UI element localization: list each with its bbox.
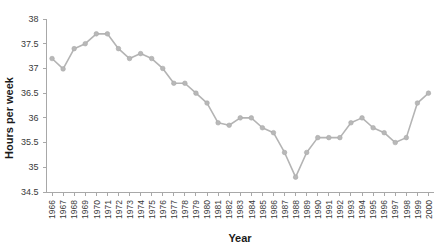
data-point-marker — [116, 46, 121, 51]
x-tick-label: 1992 — [335, 200, 345, 219]
x-tick-label: 1987 — [280, 200, 290, 219]
data-point-marker — [127, 56, 132, 61]
data-point-marker — [349, 121, 354, 126]
data-point-marker — [205, 101, 210, 106]
x-tick-label: 1976 — [158, 200, 168, 219]
data-point-marker — [271, 130, 276, 135]
data-point-marker — [293, 175, 298, 180]
x-tick-label: 1984 — [247, 200, 257, 219]
data-point-marker — [249, 116, 254, 121]
data-point-marker — [304, 150, 309, 155]
data-point-marker — [160, 66, 165, 71]
x-tick-label: 1972 — [114, 200, 124, 219]
x-tick-label: 1971 — [103, 200, 113, 219]
x-tick-label: 1982 — [224, 200, 234, 219]
x-tick-label: 1993 — [346, 200, 356, 219]
x-tick-label: 1986 — [269, 200, 279, 219]
y-tick-label: 35 — [28, 162, 38, 172]
line-chart-plot: 34.53535.53636.53737.538 196619671968196… — [0, 0, 439, 250]
data-point-marker — [172, 81, 177, 86]
y-tick-label: 35.5 — [21, 137, 39, 147]
data-point-marker — [404, 135, 409, 140]
x-tick-label: 1994 — [357, 200, 367, 219]
x-tick-label: 1991 — [324, 200, 334, 219]
x-tick-label: 1990 — [313, 200, 323, 219]
x-tick-label: 1974 — [136, 200, 146, 219]
x-tick-label: 1988 — [291, 200, 301, 219]
series-markers-group — [50, 32, 431, 180]
x-tick-label: 1981 — [213, 200, 223, 219]
x-tick-label: 1967 — [58, 200, 68, 219]
x-tick-label: 1979 — [191, 200, 201, 219]
data-point-marker — [149, 56, 154, 61]
y-tick-label: 37 — [28, 63, 38, 73]
data-point-marker — [338, 135, 343, 140]
data-point-marker — [415, 101, 420, 106]
data-point-marker — [360, 116, 365, 121]
y-tick-label: 36 — [28, 113, 38, 123]
data-point-marker — [327, 135, 332, 140]
y-tick-label: 37.5 — [21, 39, 39, 49]
x-tick-label: 1999 — [413, 200, 423, 219]
data-point-marker — [238, 116, 243, 121]
y-tick-label: 38 — [28, 14, 38, 24]
x-tick-label: 1989 — [302, 200, 312, 219]
x-tick-label: 1966 — [47, 200, 57, 219]
data-point-marker — [426, 91, 431, 96]
data-point-marker — [194, 91, 199, 96]
chart-container: 34.53535.53636.53737.538 196619671968196… — [0, 0, 439, 250]
x-tick-label: 1995 — [368, 200, 378, 219]
x-tick-label: 1970 — [92, 200, 102, 219]
x-tick-label: 1975 — [147, 200, 157, 219]
x-tick-label: 1968 — [69, 200, 79, 219]
data-point-marker — [72, 46, 77, 51]
data-point-marker — [393, 140, 398, 145]
x-tick-label: 1969 — [80, 200, 90, 219]
data-point-marker — [315, 135, 320, 140]
y-axis-title: Hours per week — [3, 76, 15, 159]
x-tick-label: 2000 — [424, 200, 434, 219]
y-tick-label: 36.5 — [21, 88, 39, 98]
data-point-marker — [382, 130, 387, 135]
y-axis-group — [43, 19, 47, 192]
data-point-marker — [138, 51, 143, 56]
x-tick-label: 1997 — [390, 200, 400, 219]
x-tick-label: 1983 — [235, 200, 245, 219]
data-point-marker — [183, 81, 188, 86]
x-tick-label: 1980 — [202, 200, 212, 219]
data-point-marker — [282, 150, 287, 155]
x-tick-label: 1998 — [402, 200, 412, 219]
data-point-marker — [227, 123, 232, 128]
x-tick-labels-group: 1966196719681969197019711972197319741975… — [47, 200, 433, 219]
x-tick-label: 1985 — [258, 200, 268, 219]
data-point-marker — [94, 32, 99, 37]
x-tick-label: 1996 — [379, 200, 389, 219]
data-point-marker — [61, 67, 66, 72]
x-tick-label: 1977 — [169, 200, 179, 219]
data-point-marker — [50, 56, 55, 61]
x-tick-label: 1973 — [125, 200, 135, 219]
x-axis-title: Year — [228, 232, 252, 244]
data-point-marker — [260, 125, 265, 130]
series-line-hours-per-week — [52, 34, 428, 177]
data-point-marker — [371, 125, 376, 130]
x-tick-label: 1978 — [180, 200, 190, 219]
data-point-marker — [216, 121, 221, 126]
data-point-marker — [105, 32, 110, 37]
data-point-marker — [83, 41, 88, 46]
y-tick-label: 34.5 — [21, 187, 39, 197]
y-tick-labels-group: 34.53535.53636.53737.538 — [21, 14, 39, 197]
